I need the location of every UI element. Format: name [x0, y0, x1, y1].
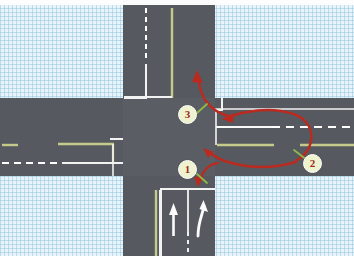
marker-badge-1[interactable]: 1	[178, 160, 197, 179]
north-curb-strip	[123, 0, 215, 5]
diagram-canvas	[0, 0, 354, 256]
marker-badge-3[interactable]: 3	[178, 105, 197, 124]
intersection-diagram: 1 2 3	[0, 0, 354, 256]
marker-badge-2[interactable]: 2	[303, 154, 322, 173]
